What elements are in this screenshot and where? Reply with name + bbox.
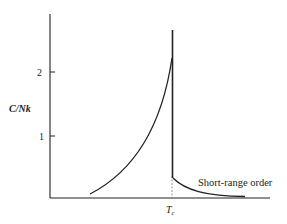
tc-label: Tc — [166, 204, 176, 217]
curve-below-tc — [90, 58, 172, 194]
y-tick-label-1: 1 — [39, 131, 44, 142]
short-range-order-annotation: Short-range order — [198, 177, 273, 188]
y-tick-label-2: 2 — [37, 67, 42, 78]
chart-area: 2 1 C/Nk Tc Short-range order — [0, 0, 287, 224]
y-axis-label: C/Nk — [9, 103, 31, 114]
